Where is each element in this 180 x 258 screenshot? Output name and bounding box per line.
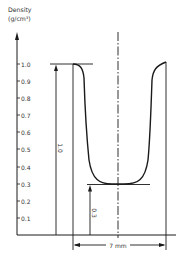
tick-0.9: 0.9 [21,78,31,85]
tick-0.1: 0.1 [21,215,31,222]
dimension-label-0.3: 0.3 [91,208,98,218]
dimension-full-density: 1.0 [54,65,64,236]
axis-title-line2: (g/cm³) [8,15,31,23]
dimension-width: 7 mm [74,242,166,249]
tick-0.7: 0.7 [21,112,31,119]
tick-0.2: 0.2 [21,198,31,205]
density-profile-curve [73,62,166,184]
arrow-up-icon [15,32,19,40]
density-profile-diagram: Density (g/cm³) 1.0 0.9 0.8 0.7 0.6 0.5 … [0,0,180,258]
arrow-up-icon [88,185,92,192]
arrow-right-icon [159,243,166,247]
y-axis [15,32,19,235]
tick-0.6: 0.6 [21,129,31,136]
tick-0.3: 0.3 [21,181,31,188]
dimension-label-1.0: 1.0 [57,143,64,153]
tick-1.0: 1.0 [21,61,31,68]
arrow-up-icon [54,65,58,72]
axis-title-line1: Density [8,6,32,14]
tick-0.4: 0.4 [21,164,31,171]
y-ticks: 1.0 0.9 0.8 0.7 0.6 0.5 0.4 0.3 0.2 0.1 [17,61,31,222]
tick-0.8: 0.8 [21,95,31,102]
arrow-left-icon [74,243,81,247]
dimension-label-width: 7 mm [109,242,127,249]
tick-0.5: 0.5 [21,146,31,153]
dimension-min-density: 0.3 [88,185,98,235]
